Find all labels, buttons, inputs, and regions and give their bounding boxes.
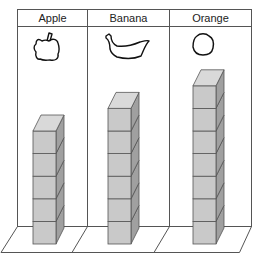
- cube-chart: Apple Banana Orange: [0, 0, 256, 262]
- cube: [193, 221, 216, 244]
- orange-icon: [193, 34, 213, 55]
- cube: [33, 176, 56, 199]
- cube-stack-apple: [33, 115, 64, 244]
- cube: [33, 154, 56, 177]
- cube-stacks: [33, 70, 224, 244]
- cube: [108, 221, 131, 244]
- banana-icon: [106, 34, 149, 58]
- cube: [108, 154, 131, 177]
- apple-icon: [34, 33, 59, 60]
- cube: [193, 108, 216, 131]
- cube: [193, 154, 216, 177]
- cube: [33, 131, 56, 154]
- cube: [193, 176, 216, 199]
- cube: [108, 131, 131, 154]
- cube: [193, 131, 216, 154]
- column-header-orange: Orange: [170, 10, 251, 26]
- cube: [108, 176, 131, 199]
- chart-svg: [0, 0, 256, 262]
- cube: [33, 199, 56, 222]
- cube: [193, 86, 216, 109]
- cube: [108, 199, 131, 222]
- cube: [33, 221, 56, 244]
- cube-stack-orange: [193, 70, 224, 244]
- cube: [193, 199, 216, 222]
- column-header-banana: Banana: [88, 10, 169, 26]
- cube-stack-banana: [108, 92, 139, 244]
- cube: [108, 108, 131, 131]
- column-header-apple: Apple: [18, 10, 87, 26]
